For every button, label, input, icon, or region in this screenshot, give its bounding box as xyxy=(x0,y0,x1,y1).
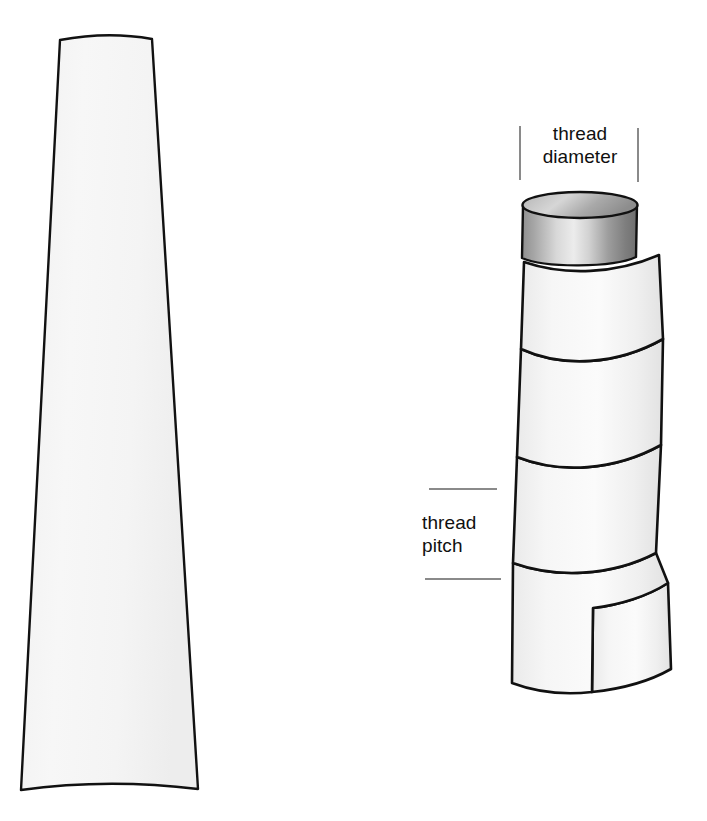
thread-pitch-annotation: thread pitch xyxy=(422,489,501,579)
tapered-blade-shape xyxy=(21,35,198,790)
thread-band-1 xyxy=(521,255,663,361)
thread-pitch-label-line1: thread xyxy=(422,512,476,533)
thread-diameter-label-line1: thread xyxy=(553,123,607,144)
diagram-canvas: thread diameter thread pitch xyxy=(0,0,707,821)
thread-diameter-annotation: thread diameter xyxy=(520,123,638,182)
screw-thread-shape xyxy=(512,192,671,693)
screw-top-cap xyxy=(523,192,638,218)
thread-pitch-label-line2: pitch xyxy=(422,535,463,556)
screw-thread-diagram: thread diameter thread pitch xyxy=(0,0,707,821)
tapered-blade-outline xyxy=(21,35,198,790)
thread-diameter-label-line2: diameter xyxy=(543,146,618,167)
